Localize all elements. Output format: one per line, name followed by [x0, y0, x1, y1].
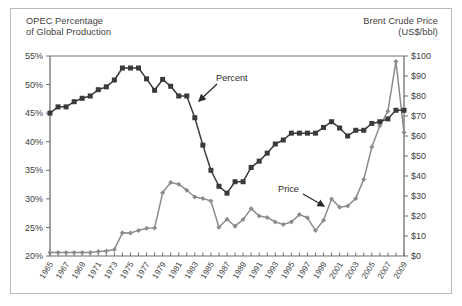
percent-series-marker	[216, 184, 221, 189]
percent-series-marker	[402, 108, 407, 113]
percent-series-marker	[233, 179, 238, 184]
percent-series-marker	[120, 66, 125, 71]
percent-series-marker	[72, 99, 77, 104]
price-series-marker	[88, 250, 93, 255]
percent-series-marker	[168, 84, 173, 89]
price-series-marker	[104, 249, 109, 254]
x-axis-tick-label: 1975	[118, 260, 136, 281]
x-axis-tick-label: 1995	[279, 260, 297, 281]
x-axis-tick-label: 1967	[54, 260, 72, 281]
x-axis-tick-label: 1999	[311, 260, 329, 281]
percent-series-marker	[353, 128, 358, 133]
x-axis-tick-label: 1981	[167, 260, 185, 281]
x-axis-tick-label: 1985	[199, 260, 217, 281]
price-series-marker	[96, 249, 101, 254]
percent-series-marker	[337, 126, 342, 131]
price-series-marker	[208, 199, 213, 204]
percent-series-marker	[64, 104, 69, 109]
price-series-marker	[369, 145, 374, 150]
price-series-marker	[128, 231, 133, 236]
percent-series-marker	[104, 84, 109, 89]
percent-series-marker	[393, 108, 398, 113]
percent-series-marker	[160, 77, 165, 82]
price-series-marker	[56, 250, 61, 255]
percent-series-marker	[249, 165, 254, 170]
price-series-marker	[281, 222, 286, 227]
percent-series-marker	[200, 143, 205, 148]
percent-series-marker	[297, 131, 302, 136]
y2-axis-tick-label: $10	[411, 231, 426, 241]
price-series-marker	[112, 247, 117, 252]
price-series-line	[50, 61, 404, 252]
x-axis-tick-label: 2009	[392, 260, 410, 281]
price-series-marker	[152, 226, 157, 231]
y-axis-tick-label: 25%	[25, 223, 43, 233]
price-series-marker	[144, 226, 149, 231]
percent-series-marker	[56, 104, 61, 109]
y2-axis-tick-label: $70	[411, 111, 426, 121]
percent-series-marker	[369, 121, 374, 126]
x-axis-tick-label: 1971	[86, 260, 104, 281]
percent-series-marker	[144, 76, 149, 81]
percent-series-marker	[96, 87, 101, 92]
y2-axis-tick-label: $80	[411, 91, 426, 101]
y2-axis-tick-label: $50	[411, 151, 426, 161]
y2-axis-tick-label: $60	[411, 131, 426, 141]
y2-axis-tick-label: $20	[411, 211, 426, 221]
y-axis-tick-label: 35%	[25, 165, 43, 175]
percent-series-marker	[152, 88, 157, 93]
price-annotation-arrow	[303, 194, 324, 206]
y2-axis-tick-label: $0	[411, 251, 421, 261]
percent-series-line	[50, 68, 404, 193]
percent-series-marker	[321, 125, 326, 130]
x-axis-tick-label: 2007	[376, 260, 394, 281]
y-axis-tick-label: 45%	[25, 108, 43, 118]
y-axis-tick-label: 30%	[25, 194, 43, 204]
percent-series-marker	[48, 111, 53, 116]
y-axis-tick-label: 55%	[25, 51, 43, 61]
chart-svg: 20%25%30%35%40%45%50%55%$0$10$20$30$40$5…	[0, 0, 462, 306]
price-series-marker	[48, 250, 53, 255]
percent-series-marker	[136, 66, 141, 71]
x-axis-tick-label: 1973	[102, 260, 120, 281]
x-axis-tick-label: 1993	[263, 260, 281, 281]
percent-series-marker	[241, 179, 246, 184]
price-series-marker	[402, 130, 407, 135]
percent-series-marker	[88, 94, 93, 99]
x-axis-tick-label: 2005	[360, 260, 378, 281]
y-axis-tick-label: 50%	[25, 80, 43, 90]
x-axis-tick-label: 1983	[183, 260, 201, 281]
y-axis-tick-label: 20%	[25, 251, 43, 261]
percent-series-marker	[289, 131, 294, 136]
y2-axis-tick-label: $90	[411, 71, 426, 81]
price-series-marker	[64, 250, 69, 255]
percent-series-marker	[80, 96, 85, 101]
percent-series-marker	[192, 115, 197, 120]
percent-series-marker	[257, 159, 262, 164]
percent-annotation-label: Percent	[216, 73, 248, 83]
price-series-marker	[393, 59, 398, 64]
chart-canvas: 20%25%30%35%40%45%50%55%$0$10$20$30$40$5…	[0, 0, 462, 306]
x-axis-tick-label: 1965	[38, 260, 56, 281]
percent-series-marker	[184, 94, 189, 99]
x-axis-tick-label: 1991	[247, 260, 265, 281]
percent-series-marker	[345, 134, 350, 139]
percent-series-marker	[281, 138, 286, 143]
y2-axis-tick-label: $40	[411, 171, 426, 181]
x-axis-tick-label: 1987	[215, 260, 233, 281]
x-axis-tick-label: 1969	[70, 260, 88, 281]
price-series-marker	[136, 228, 141, 233]
y-axis-tick-label: 40%	[25, 137, 43, 147]
percent-series-marker	[225, 191, 230, 196]
price-series-marker	[120, 230, 125, 235]
price-series-marker	[72, 250, 77, 255]
x-axis-tick-label: 2001	[328, 260, 346, 281]
x-axis-tick-label: 1979	[151, 260, 169, 281]
percent-series-marker	[273, 142, 278, 147]
price-series-marker	[200, 196, 205, 201]
percent-series-marker	[128, 66, 133, 71]
percent-series-marker	[361, 128, 366, 133]
percent-series-marker	[265, 151, 270, 156]
price-series-marker	[361, 177, 366, 182]
x-axis-tick-label: 1997	[295, 260, 313, 281]
